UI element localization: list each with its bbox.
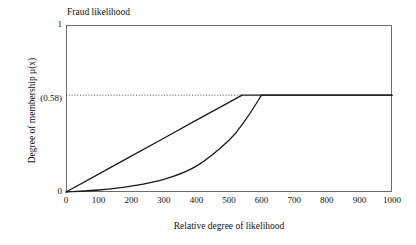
convex-membership-curve-rising-segment: [66, 95, 262, 192]
y-tick-label-1: 1: [58, 19, 63, 29]
x-tick-label-600: 600: [255, 195, 269, 206]
x-tick-label-200: 200: [124, 195, 138, 206]
x-tick-label-100: 100: [92, 195, 106, 206]
x-tick-label-800: 800: [320, 195, 334, 206]
linear-membership-curve-rising-segment: [66, 95, 242, 192]
y-tick-label-058: (0.58): [40, 93, 62, 103]
y-tick-label-0: 0: [58, 186, 63, 196]
curves-group: [66, 95, 392, 192]
x-tick-label-500: 500: [222, 195, 236, 206]
x-tick-label-1000: 1000: [383, 195, 401, 206]
plot-area: [66, 25, 392, 192]
x-tick-label-400: 400: [190, 195, 204, 206]
x-tick-label-group: 01002003004005006007008009001000: [66, 195, 392, 208]
chart-title: Fraud likelihood: [67, 7, 130, 18]
x-tick-label-900: 900: [353, 195, 367, 206]
y-axis-title: Degree of membership μ(x): [27, 31, 38, 191]
x-tick-label-0: 0: [64, 195, 69, 206]
chart-page: Fraud likelihood Degree of membership μ(…: [0, 0, 416, 245]
x-tick-label-300: 300: [157, 195, 171, 206]
x-axis-title: Relative degree of likelihood: [66, 221, 392, 232]
x-tick-label-700: 700: [287, 195, 301, 206]
